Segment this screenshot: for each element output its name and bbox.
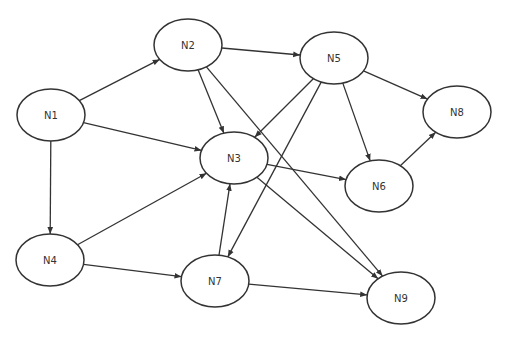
node-n1[interactable]: N1 [17, 89, 85, 141]
arrow-icon [222, 48, 300, 55]
arrow-icon [84, 123, 202, 151]
edge-n5-to-n6 [343, 83, 370, 161]
node-n7[interactable]: N7 [181, 255, 249, 307]
arrow-icon [219, 184, 230, 255]
edge-n5-to-n3 [255, 79, 314, 138]
edge-n2-to-n3 [198, 70, 224, 133]
edge-n7-to-n3 [219, 184, 230, 255]
arrow-icon [84, 264, 182, 276]
arrow-icon [255, 79, 314, 138]
node-n4[interactable]: N4 [16, 234, 84, 286]
arrow-icon [50, 141, 51, 234]
arrow-icon [198, 70, 224, 133]
arrow-icon [249, 284, 367, 295]
node-n6[interactable]: N6 [345, 160, 413, 212]
edge-n5-to-n8 [364, 71, 428, 99]
edge-n4-to-n7 [84, 264, 182, 276]
node-label: N9 [394, 293, 408, 304]
graph-canvas: N1N2N3N4N5N6N7N8N9 [0, 0, 511, 339]
node-n9[interactable]: N9 [367, 272, 435, 324]
edge-n1-to-n3 [84, 123, 202, 151]
edge-n2-to-n5 [222, 48, 300, 55]
edge-n4-to-n3 [78, 173, 207, 244]
edge-n1-to-n4 [50, 141, 51, 234]
node-label: N6 [372, 181, 386, 192]
node-label: N3 [227, 153, 241, 164]
node-n8[interactable]: N8 [423, 86, 491, 138]
arrow-icon [364, 71, 428, 99]
node-n2[interactable]: N2 [154, 19, 222, 71]
edge-n3-to-n6 [267, 164, 346, 179]
node-n3[interactable]: N3 [200, 132, 268, 184]
arrow-icon [343, 83, 370, 161]
node-n5[interactable]: N5 [300, 32, 368, 84]
arrow-icon [267, 164, 346, 179]
arrow-icon [79, 59, 159, 100]
node-label: N5 [327, 53, 341, 64]
node-label: N8 [450, 107, 464, 118]
arrow-icon [78, 173, 207, 244]
edge-n7-to-n9 [249, 284, 367, 295]
arrow-icon [400, 132, 435, 166]
edge-n6-to-n8 [400, 132, 435, 166]
node-label: N7 [208, 276, 222, 287]
edge-n1-to-n2 [79, 59, 159, 100]
node-label: N2 [181, 40, 195, 51]
node-label: N1 [44, 110, 58, 121]
node-label: N4 [43, 255, 57, 266]
node-layer: N1N2N3N4N5N6N7N8N9 [16, 19, 491, 324]
